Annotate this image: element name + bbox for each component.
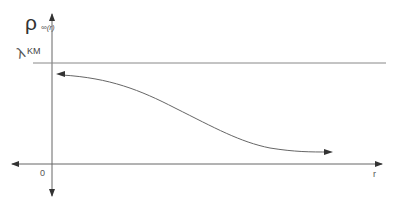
density-curve (62, 75, 330, 152)
y-axis-subscript: ∞(r) (41, 23, 55, 32)
x-axis-label: r (373, 169, 376, 179)
diagram-graphics (0, 0, 396, 209)
curve-arrow-right-icon (324, 149, 333, 155)
origin-label: 0 (40, 168, 45, 178)
curve-arrow-left-icon (56, 71, 65, 77)
y-axis-symbol: ρ (25, 12, 37, 33)
threshold-subscript: KM (27, 46, 41, 56)
diagram-canvas: ρ ∞(r) λ KM 0 r (0, 0, 396, 209)
